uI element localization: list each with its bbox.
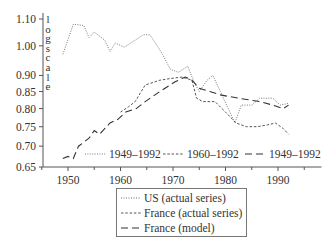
legend-item-france-model: France (model) bbox=[121, 220, 215, 235]
series-line-france-actual-series bbox=[121, 77, 289, 134]
y-tick-label: 0.80 bbox=[16, 103, 36, 115]
x-tick-label: 1950 bbox=[57, 174, 80, 186]
x-tick-label: 1970 bbox=[162, 174, 185, 186]
y-tick-label: 0.65 bbox=[16, 161, 36, 173]
y-axis-title-char: e bbox=[46, 80, 51, 92]
x-tick-label: 1980 bbox=[214, 174, 237, 186]
series-line-france-model bbox=[63, 77, 289, 159]
series-line-us-actual-series bbox=[63, 24, 289, 123]
y-axis-title: logscale bbox=[45, 13, 51, 92]
legend-swatch-dotted bbox=[121, 193, 141, 203]
y-tick-label: 1.00 bbox=[16, 40, 36, 52]
legend: US (actual series) France (actual series… bbox=[116, 188, 247, 237]
y-tick-label: 0.75 bbox=[16, 121, 36, 133]
y-tick-label: 0.90 bbox=[16, 69, 36, 81]
inline-legend-label: 1960–1992 bbox=[187, 148, 239, 160]
legend-item-france-actual: France (actual series) bbox=[121, 205, 242, 220]
legend-swatch-long-dash bbox=[121, 223, 141, 233]
legend-swatch-short-dash bbox=[121, 208, 141, 218]
legend-item-us-actual: US (actual series) bbox=[121, 190, 226, 205]
y-tick-label: 0.85 bbox=[16, 86, 36, 98]
inline-legend: 1949–19921960–19921949–1992 bbox=[85, 148, 321, 160]
inline-legend-label: 1949–1992 bbox=[269, 148, 321, 160]
x-tick-label: 1990 bbox=[267, 174, 290, 186]
legend-label: France (model) bbox=[144, 222, 215, 234]
legend-label: US (actual series) bbox=[144, 192, 226, 204]
legend-label: France (actual series) bbox=[144, 207, 242, 219]
x-axis: 19501960197019801990 bbox=[42, 167, 322, 186]
y-tick-label: 1.10 bbox=[16, 13, 36, 25]
x-tick-label: 1960 bbox=[109, 174, 132, 186]
series-group bbox=[63, 24, 289, 158]
y-axis: 1.101.000.900.850.800.750.700.65 bbox=[16, 13, 43, 173]
y-tick-label: 0.70 bbox=[16, 140, 36, 152]
inline-legend-label: 1949–1992 bbox=[109, 148, 161, 160]
